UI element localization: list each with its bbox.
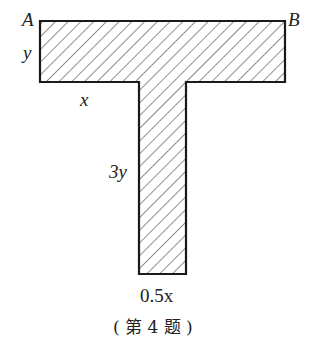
label-0-5x: 0.5x [140, 286, 173, 305]
label-x: x [80, 90, 88, 109]
caption: ( 第 4 题 ) [113, 319, 193, 336]
label-3y: 3y [109, 162, 127, 181]
label-y: y [23, 43, 31, 62]
label-a: A [22, 10, 34, 29]
label-b: B [288, 10, 300, 29]
t-shape [40, 21, 285, 274]
